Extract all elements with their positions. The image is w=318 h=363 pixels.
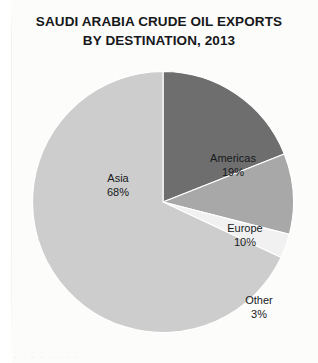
scan-footer-remnant: · · · · · · · · [14, 354, 304, 363]
pie-label-americas-name: Americas [196, 152, 270, 166]
pie-label-europe-name: Europe [213, 222, 277, 236]
chart-title-line-1: SAUDI ARABIA CRUDE OIL EXPORTS [0, 12, 318, 31]
pie-label-other-name: Other [232, 294, 286, 308]
pie-label-americas-value: 19% [196, 166, 270, 180]
pie-label-europe-value: 10% [213, 236, 277, 250]
pie-label-europe: Europe 10% [213, 222, 277, 249]
pie-label-asia-name: Asia [85, 172, 151, 186]
pie-label-other-value: 3% [232, 308, 286, 322]
chart-title: SAUDI ARABIA CRUDE OIL EXPORTS BY DESTIN… [0, 12, 318, 50]
chart-title-line-2: BY DESTINATION, 2013 [0, 31, 318, 50]
pie-label-other: Other 3% [232, 294, 286, 321]
page-edge-line [11, 0, 12, 363]
pie-label-asia-value: 68% [85, 186, 151, 200]
pie-chart-figure: SAUDI ARABIA CRUDE OIL EXPORTS BY DESTIN… [0, 0, 318, 363]
pie-label-americas: Americas 19% [196, 152, 270, 179]
pie-label-asia: Asia 68% [85, 172, 151, 199]
